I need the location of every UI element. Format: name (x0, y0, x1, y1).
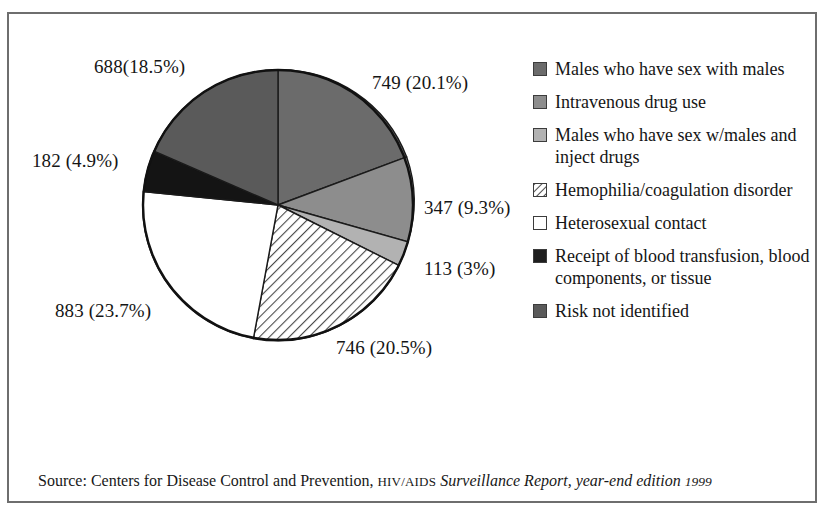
pie-slice-heterosexual[interactable] (143, 192, 278, 339)
legend-item-heterosexual[interactable]: Heterosexual contact (533, 212, 813, 234)
legend-label-hemophilia: Hemophilia/coagulation disorder (555, 179, 792, 201)
legend-swatch-icon-msm (533, 62, 547, 76)
legend-item-risk-not-identified[interactable]: Risk not identified (533, 300, 813, 322)
slice-label-transfusion: 182 (4.9%) (32, 150, 118, 172)
slice-label-ivdu: 347 (9.3%) (424, 197, 510, 219)
legend-swatch-icon-msm-idu (533, 128, 547, 142)
legend-label-msm-idu: Males who have sex w/males and inject dr… (555, 124, 810, 168)
legend-swatch-icon-hemophilia (533, 183, 547, 197)
legend-item-msm-idu[interactable]: Males who have sex w/males and inject dr… (533, 124, 813, 168)
legend: Males who have sex with males Intravenou… (533, 58, 813, 333)
slice-label-msm: 749 (20.1%) (372, 72, 468, 94)
source-note: Source: Centers for Disease Control and … (38, 472, 712, 490)
legend-label-transfusion: Receipt of blood transfusion, blood comp… (555, 245, 810, 289)
legend-item-hemophilia[interactable]: Hemophilia/coagulation disorder (533, 179, 813, 201)
slice-label-risk-not-identified: 688(18.5%) (94, 56, 185, 78)
legend-label-ivdu: Intravenous drug use (555, 91, 706, 113)
legend-label-msm: Males who have sex with males (555, 58, 784, 80)
legend-item-msm[interactable]: Males who have sex with males (533, 58, 813, 80)
pie-chart-svg (120, 50, 440, 370)
legend-label-risk-not-identified: Risk not identified (555, 300, 689, 322)
slice-label-msm-idu: 113 (3%) (424, 258, 495, 280)
source-year: 1999 (685, 474, 712, 489)
legend-swatch-icon-ivdu (533, 95, 547, 109)
source-publication-title: Surveillance Report, (436, 472, 572, 489)
legend-swatch-icon-heterosexual (533, 216, 547, 230)
legend-item-ivdu[interactable]: Intravenous drug use (533, 91, 813, 113)
pie-chart-area: 749 (20.1%) 347 (9.3%) 113 (3%) 746 (20.… (0, 0, 825, 518)
slice-label-hemophilia: 746 (20.5%) (336, 337, 432, 359)
legend-item-transfusion[interactable]: Receipt of blood transfusion, blood comp… (533, 245, 813, 289)
source-edition: year-end edition (572, 472, 685, 489)
slice-label-heterosexual: 883 (23.7%) (55, 300, 151, 322)
legend-label-heterosexual: Heterosexual contact (555, 212, 706, 234)
figure-page: 749 (20.1%) 347 (9.3%) 113 (3%) 746 (20.… (0, 0, 825, 518)
source-publication-acronym: HIV/AIDS (377, 474, 436, 489)
legend-swatch-icon-risk-not-identified (533, 304, 547, 318)
hatch-pattern-icon (534, 184, 546, 196)
legend-swatch-icon-transfusion (533, 249, 547, 263)
source-prefix: Source: Centers for Disease Control and … (38, 472, 377, 489)
